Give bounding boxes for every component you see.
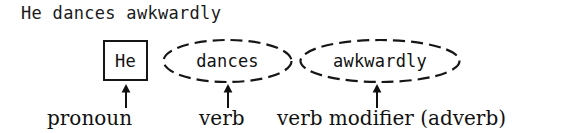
node-pronoun-label: He (115, 51, 136, 71)
caption-pronoun: pronoun (47, 106, 132, 130)
up-arrow-icon-verb (221, 84, 235, 108)
node-pronoun-box: He (103, 40, 148, 81)
caption-verb-modifier: verb modifier (adverb) (277, 106, 506, 130)
caption-verb: verb (199, 106, 245, 130)
node-adverb-ellipse: awkwardly (299, 39, 461, 83)
node-verb-label: dances (162, 39, 293, 83)
up-arrow-icon-pronoun (119, 84, 133, 108)
sentence-text: He dances awkwardly (21, 2, 221, 24)
up-arrow-icon-adverb (370, 84, 384, 108)
grammar-diagram-figure: He dances awkwardly He dances awkwardly (0, 0, 587, 133)
node-adverb-label: awkwardly (299, 39, 461, 83)
node-verb-ellipse: dances (162, 39, 293, 83)
